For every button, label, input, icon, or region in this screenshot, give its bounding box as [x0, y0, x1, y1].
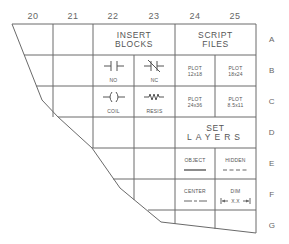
layer-hidden-label: HIDDEN — [225, 157, 245, 163]
script-files-line2: FILES — [202, 40, 229, 49]
layer-center[interactable]: CENTER — [175, 179, 215, 210]
block-resistor[interactable]: RESIS — [134, 86, 175, 117]
column-label-24: 24 — [175, 11, 215, 21]
row-label-e: E — [262, 159, 282, 168]
set-layers-line2: LAYERS — [187, 133, 244, 142]
script-size: 12x18 — [188, 71, 203, 77]
layer-object-label: OBJECT — [185, 157, 206, 163]
block-resis-label: RESIS — [146, 108, 162, 114]
layer-center-label: CENTER — [184, 188, 206, 194]
column-label-23: 23 — [134, 11, 174, 21]
script-plot-18x24[interactable]: PLOT 18x24 — [215, 55, 256, 86]
layer-object[interactable]: OBJECT — [175, 148, 215, 179]
layer-dim[interactable]: DIM — [215, 179, 256, 210]
row-label-f: F — [262, 190, 282, 199]
layer-dim-label: DIM — [231, 188, 241, 194]
block-no-contact[interactable]: NO — [93, 55, 134, 86]
insert-blocks-header: INSERT BLOCKS — [93, 24, 175, 55]
script-files-header: SCRIPT FILES — [175, 24, 256, 55]
insert-blocks-line2: BLOCKS — [115, 40, 153, 49]
script-size: 8.5x11 — [228, 102, 244, 108]
row-label-a: A — [262, 35, 282, 44]
row-label-g: G — [262, 221, 282, 230]
script-plot-24x36[interactable]: PLOT 24x36 — [175, 86, 215, 117]
row-label-b: B — [262, 66, 282, 75]
script-plot-12x18[interactable]: PLOT 12x18 — [175, 55, 215, 86]
row-label-d: D — [262, 128, 282, 137]
dim-value: X.X — [228, 198, 243, 204]
block-coil-label: COIL — [107, 108, 119, 114]
column-label-20: 20 — [13, 11, 53, 21]
row-label-c: C — [262, 97, 282, 106]
column-label-22: 22 — [93, 11, 133, 21]
layer-hidden[interactable]: HIDDEN — [215, 148, 256, 179]
block-no-label: NO — [110, 77, 118, 83]
column-label-21: 21 — [53, 11, 93, 21]
column-label-25: 25 — [215, 11, 255, 21]
script-plot-8-5x11[interactable]: PLOT 8.5x11 — [215, 86, 256, 117]
block-coil[interactable]: COIL — [93, 86, 134, 117]
set-layers-header: SET LAYERS — [175, 117, 256, 148]
script-size: 24x36 — [188, 102, 203, 108]
block-nc-label: NC — [151, 77, 159, 83]
script-size: 18x24 — [228, 71, 243, 77]
block-nc-contact[interactable]: NC — [134, 55, 175, 86]
